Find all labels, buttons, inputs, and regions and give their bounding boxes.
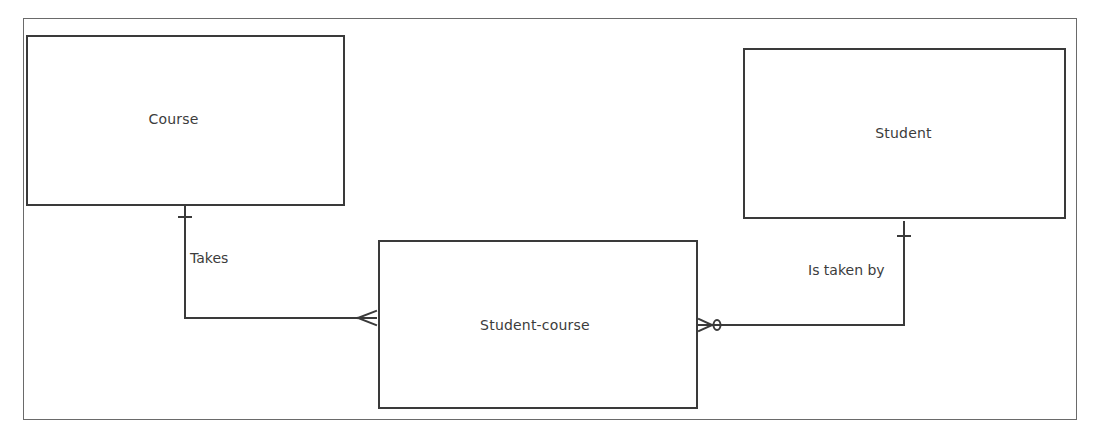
entity-label: Student-course xyxy=(480,317,590,333)
relationship-label-takes: Takes xyxy=(190,250,228,266)
crows-foot-many-icon xyxy=(358,311,376,325)
entity-student[interactable]: Student xyxy=(743,48,1066,219)
relationship-label-is-taken-by: Is taken by xyxy=(808,262,885,278)
entity-label: Student xyxy=(875,125,932,141)
entity-student-course[interactable]: Student-course xyxy=(378,240,698,409)
entity-course[interactable]: Course xyxy=(26,35,345,206)
er-diagram-canvas: Course Student Student-course Takes Is t… xyxy=(0,0,1096,439)
entity-label: Course xyxy=(148,111,198,127)
